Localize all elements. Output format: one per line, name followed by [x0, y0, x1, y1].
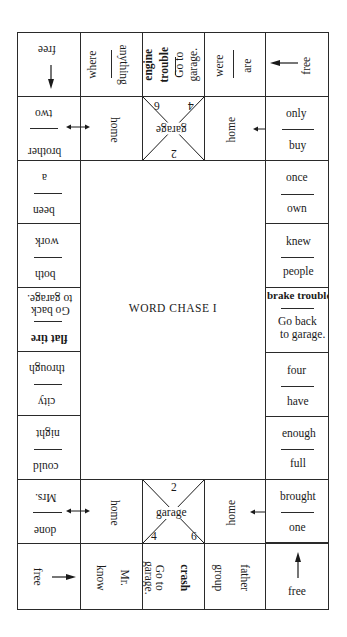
word-top: four: [287, 365, 306, 377]
word-right: Mr.: [118, 570, 130, 586]
divider: [281, 386, 314, 387]
cell-group-father[interactable]: group father: [204, 543, 266, 610]
cell-work-both[interactable]: work both: [17, 223, 81, 288]
divider: [34, 321, 62, 322]
instruction-line-1: to garage.: [27, 292, 72, 304]
word-top: enough: [282, 428, 316, 440]
divider: [34, 384, 62, 385]
cell-night-could[interactable]: night could: [17, 415, 81, 480]
divider: [281, 512, 314, 513]
divider: [233, 50, 234, 78]
home-label: home: [108, 117, 120, 143]
cell-crash[interactable]: garage. Go to crash: [142, 543, 205, 610]
instruction-line-2: Go back: [31, 304, 70, 316]
hazard-word: flat tire: [31, 332, 68, 344]
word-top: Mrs.: [35, 491, 56, 503]
word-bottom: people: [283, 266, 314, 278]
word-bottom: been: [33, 204, 55, 216]
cell-label: free: [288, 586, 306, 598]
cell-flat-tire[interactable]: to garage. Go back flat tire: [17, 287, 81, 352]
instruction-line-1: garage.: [142, 561, 154, 595]
word-top: through: [29, 362, 65, 374]
cell-label: free: [31, 568, 43, 586]
word-top: two: [35, 107, 52, 119]
cell-brake-trouble[interactable]: brake trouble Go back to garage.: [265, 287, 329, 353]
arrow-left-icon: [270, 60, 298, 66]
word-bottom: brother: [28, 145, 61, 157]
word-top: a: [42, 171, 47, 183]
cell-four-have[interactable]: four have: [265, 352, 329, 417]
cell-a-been[interactable]: a been: [17, 160, 81, 224]
garage-top[interactable]: 6 4 garage 2: [142, 96, 205, 161]
word-bottom: own: [287, 203, 307, 215]
word-top: only: [286, 108, 306, 120]
hazard-word: crash: [179, 564, 191, 591]
cell-free-bottom-left[interactable]: free: [17, 543, 81, 610]
cell-were-are[interactable]: were are: [204, 32, 266, 97]
divider: [33, 512, 62, 513]
home-label: home: [226, 500, 238, 526]
divider: [34, 257, 62, 258]
word-top: where: [87, 51, 99, 79]
cell-once-own[interactable]: once own: [265, 160, 329, 224]
game-board: free where anything engine trouble Go to…: [17, 32, 329, 610]
word-left: group: [213, 564, 225, 591]
cell-knew-people[interactable]: knew people: [265, 223, 329, 288]
divider: [30, 128, 58, 129]
arrow-up-icon: [295, 552, 301, 578]
instruction-line-2: to garage.: [280, 329, 325, 341]
divider: [281, 194, 314, 195]
divider: [34, 449, 62, 450]
garage-number: 4: [151, 531, 157, 543]
hazard-word-1: engine: [143, 49, 155, 81]
cell-label: free: [301, 57, 313, 75]
double-arrow-icon: [66, 508, 90, 514]
divider: [282, 129, 314, 130]
board-title: WORD CHASE I: [80, 302, 266, 314]
divider: [281, 257, 314, 258]
divider: [111, 50, 112, 78]
garage-number: 4: [188, 99, 194, 111]
cell-engine-trouble[interactable]: engine trouble Go to garage.: [142, 32, 205, 97]
hazard-word-2: trouble: [159, 47, 171, 83]
cell-through-city[interactable]: through city: [17, 351, 81, 416]
word-top: brought: [280, 491, 316, 503]
home-label: home: [108, 500, 120, 526]
cell-free-top-right[interactable]: free: [265, 32, 329, 97]
divider: [34, 193, 62, 194]
cell-brought-one[interactable]: brought one: [265, 479, 329, 543]
word-bottom: done: [34, 524, 56, 536]
word-top: work: [35, 235, 59, 247]
word-bottom: are: [242, 59, 254, 73]
cell-free-bottom-right[interactable]: free: [265, 543, 329, 610]
word-bottom: have: [287, 396, 309, 408]
word-bottom: full: [290, 458, 306, 470]
word-bottom: both: [35, 268, 55, 280]
garage-number: 6: [154, 99, 160, 111]
word-bottom: anything: [117, 45, 129, 85]
instruction-line-1: Go to: [174, 52, 186, 78]
cell-free-top-left[interactable]: free: [17, 32, 81, 97]
home-label: home: [226, 117, 238, 143]
word-bottom: one: [289, 522, 306, 534]
garage-bottom[interactable]: 2 garage 4 6: [142, 479, 205, 544]
word-bottom: could: [33, 460, 59, 472]
cell-where-anything[interactable]: where anything: [80, 32, 143, 97]
word-top: night: [36, 427, 60, 439]
word-top: once: [286, 172, 308, 184]
arrow-right-icon: [52, 574, 76, 580]
word-bottom: city: [38, 395, 55, 407]
cell-label: free: [38, 43, 56, 55]
cell-only-buy[interactable]: only buy: [265, 96, 329, 161]
instruction-line-2: garage.: [188, 48, 200, 82]
double-arrow-icon: [66, 124, 90, 130]
cell-know-mr[interactable]: know Mr.: [80, 543, 143, 610]
word-right: father: [239, 564, 251, 591]
arrow-down-icon: [48, 65, 54, 89]
garage-number: 2: [171, 147, 177, 159]
word-left: know: [94, 565, 106, 591]
cell-enough-full[interactable]: enough full: [265, 416, 329, 480]
garage-label: garage: [156, 123, 187, 135]
divider: [281, 308, 314, 309]
word-bottom: buy: [289, 140, 306, 152]
